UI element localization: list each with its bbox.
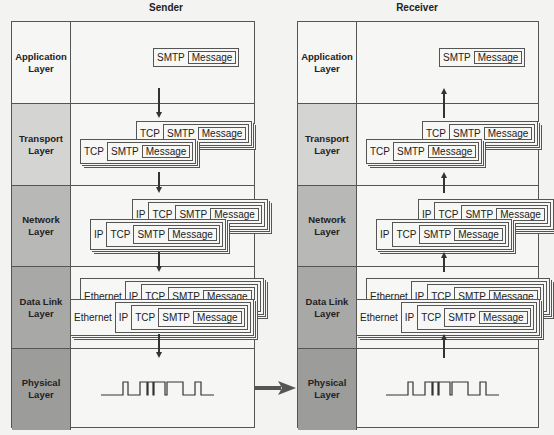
- arrow-down-icon: [156, 172, 162, 193]
- transmission-arrow-icon: [255, 381, 296, 395]
- arrow-up-icon: [441, 334, 447, 358]
- sender-signal-waveform: [101, 382, 214, 395]
- arrow-up-icon: [441, 172, 447, 193]
- receiver-signal-waveform: [386, 382, 499, 395]
- arrow-up-icon: [441, 252, 447, 272]
- arrow-up-icon: [441, 88, 447, 118]
- arrow-down-icon: [156, 252, 162, 272]
- arrow-down-icon: [156, 88, 162, 118]
- arrow-down-icon: [156, 334, 162, 358]
